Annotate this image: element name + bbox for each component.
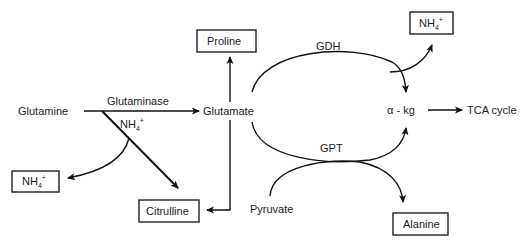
box-proline: Proline <box>197 30 256 52</box>
label-gdh: GDH <box>316 40 341 52</box>
arc-gdh <box>252 52 406 92</box>
label-glutamate: Glutamate <box>203 105 254 117</box>
label-nh4-mid: NH4+ <box>120 117 144 132</box>
box-nh4-left: NH4+ <box>12 171 59 192</box>
label-tca: TCA cycle <box>467 104 517 116</box>
svg-text:Proline: Proline <box>207 35 241 47</box>
box-alanine: Alanine <box>393 213 448 235</box>
box-nh4-top: NH4+ <box>410 12 453 34</box>
arc-gpt-pyruvate-alanine <box>270 161 403 202</box>
box-citrulline: Citrulline <box>139 200 199 222</box>
arrow-nh4-release <box>68 138 129 178</box>
svg-text:Citrulline: Citrulline <box>146 205 189 217</box>
label-pyruvate: Pyruvate <box>250 203 293 215</box>
label-glutaminase: Glutaminase <box>107 95 169 107</box>
pathway-diagram: Glutamine Glutaminase NH4+ Glutamate GDH… <box>0 0 527 243</box>
label-akg: α - kg <box>387 104 415 116</box>
arrow-glutamate-to-citrulline <box>207 120 230 210</box>
label-gpt: GPT <box>320 142 343 154</box>
arrow-gdh-nh4 <box>390 45 432 72</box>
label-glutamine: Glutamine <box>18 105 68 117</box>
svg-text:Alanine: Alanine <box>403 218 440 230</box>
